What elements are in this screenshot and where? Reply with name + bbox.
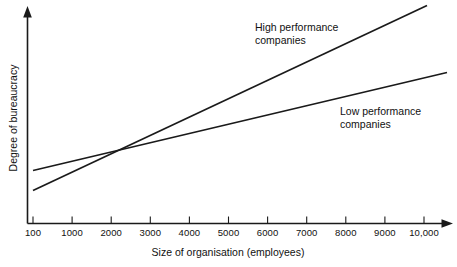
- x-tick-label-1000: 1000: [61, 227, 83, 238]
- x-tick-label-100: 100: [25, 227, 41, 238]
- x-tick-label-3000: 3000: [140, 227, 162, 238]
- y-axis-arrow-icon: [23, 6, 32, 18]
- x-tick-label-8000: 8000: [335, 227, 357, 238]
- x-tick-label-4000: 4000: [179, 227, 201, 238]
- x-tick-label-2000: 2000: [100, 227, 122, 238]
- x-axis-arrow-icon: [442, 219, 454, 228]
- high-performance-label-line1: High performance: [255, 21, 338, 34]
- bureaucracy-vs-size-chart: 100 1000 2000 3000 4000 5000 6000 7000 8…: [0, 0, 457, 267]
- x-tick-label-6000: 6000: [257, 227, 279, 238]
- x-axis-ticks: [33, 217, 424, 224]
- y-axis-title: Degree of bureaucracy: [7, 65, 19, 172]
- x-tick-label-9000: 9000: [374, 227, 396, 238]
- high-performance-line: [33, 6, 427, 191]
- low-performance-label-line2: companies: [340, 118, 421, 131]
- x-tick-label-7000: 7000: [296, 227, 318, 238]
- high-performance-label-line2: companies: [255, 34, 338, 47]
- x-tick-label-5000: 5000: [218, 227, 240, 238]
- x-axis-title: Size of organisation (employees): [152, 246, 305, 258]
- x-tick-label-10000: 10,000: [409, 227, 439, 238]
- low-performance-label: Low performance companies: [340, 105, 421, 131]
- high-performance-label: High performance companies: [255, 21, 338, 47]
- low-performance-label-line1: Low performance: [340, 105, 421, 118]
